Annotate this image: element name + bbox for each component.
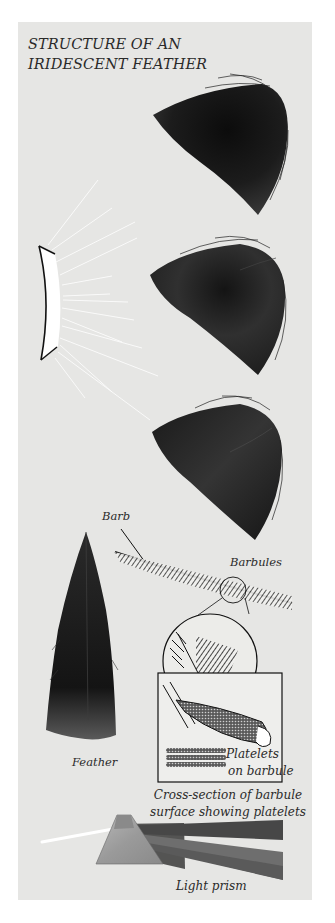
caption-line-2: surface showing platelets <box>148 804 308 821</box>
feather-view-3 <box>152 396 283 540</box>
label-feather: Feather <box>72 755 117 769</box>
light-prism-icon <box>42 815 283 880</box>
diagram-artwork <box>0 0 335 923</box>
whole-feather-icon <box>46 532 118 739</box>
light-source-mirror-icon <box>39 246 60 360</box>
feather-view-1 <box>153 74 288 215</box>
label-platelets-1: Platelets <box>226 747 279 761</box>
light-rays <box>48 180 158 420</box>
label-light-prism: Light prism <box>176 879 247 893</box>
label-platelets-2: on barbule <box>228 764 294 778</box>
caption-line-1: Cross-section of barbule <box>148 787 308 804</box>
cross-section-caption: Cross-section of barbule surface showing… <box>148 787 308 821</box>
feather-view-2 <box>150 236 286 375</box>
platelets-sample <box>166 748 226 767</box>
label-barbules: Barbules <box>230 555 282 569</box>
label-barb: Barb <box>102 509 130 523</box>
